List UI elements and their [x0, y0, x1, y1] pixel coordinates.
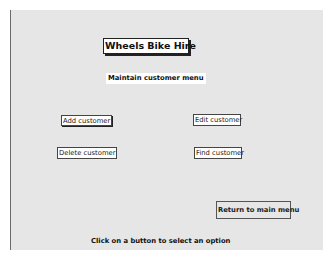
- find-customer-button[interactable]: Find customer: [194, 147, 242, 159]
- app-title: Wheels Bike Hire: [103, 38, 189, 54]
- menu-heading: Maintain customer menu: [106, 73, 206, 84]
- delete-customer-button[interactable]: Delete customer: [57, 147, 117, 159]
- form-panel: Wheels Bike Hire Maintain customer menu …: [10, 10, 323, 250]
- return-to-main-menu-button[interactable]: Return to main menu: [216, 201, 291, 219]
- add-customer-button[interactable]: Add customer: [61, 115, 112, 126]
- edit-customer-button[interactable]: Edit customer: [193, 114, 241, 126]
- instruction-text: Click on a button to select an option: [91, 237, 230, 245]
